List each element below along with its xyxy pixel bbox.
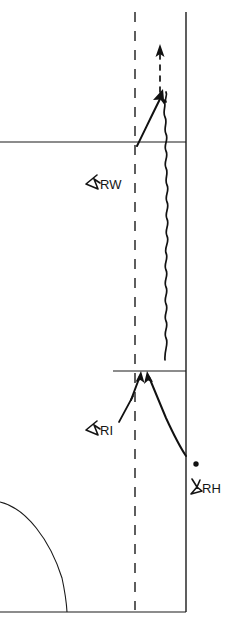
solid-up-arrow-shaft bbox=[137, 99, 160, 146]
angle-marker-icon bbox=[191, 479, 202, 494]
diagram-root: RW RI RH bbox=[0, 0, 231, 625]
label-rh-text: RH bbox=[202, 481, 221, 496]
angle-marker-icon bbox=[86, 175, 100, 189]
label-rw: RW bbox=[86, 175, 122, 192]
label-rh: RH bbox=[191, 479, 221, 496]
ri-leader-line bbox=[119, 396, 133, 422]
label-rw-text: RW bbox=[100, 177, 122, 192]
quarter-circle-arc bbox=[0, 502, 67, 612]
wavy-trajectory-line bbox=[164, 100, 168, 360]
angle-marker-icon bbox=[86, 421, 100, 435]
solid-up-arrow-wiggle bbox=[165, 92, 166, 102]
label-ri: RI bbox=[86, 421, 113, 438]
label-ri-text: RI bbox=[100, 423, 113, 438]
schematic-canvas: RW RI RH bbox=[0, 0, 231, 625]
interface-right-arrow-shaft bbox=[149, 377, 186, 456]
interface-left-arrow-head bbox=[136, 371, 145, 383]
point-dot-marker bbox=[193, 461, 198, 466]
